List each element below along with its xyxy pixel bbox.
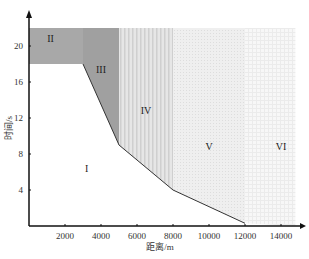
x-arrow-icon (300, 223, 306, 229)
y-tick-label: 20 (14, 41, 24, 51)
x-tick-label: 14000 (270, 231, 293, 241)
x-tick-label: 2000 (56, 231, 75, 241)
y-tick-label: 12 (14, 113, 23, 123)
region-label-VI: VI (276, 141, 287, 152)
x-tick-label: 12000 (234, 231, 257, 241)
x-tick-label: 4000 (92, 231, 111, 241)
region-III (83, 28, 119, 145)
y-tick-label: 4 (19, 185, 24, 195)
region-label-II: II (47, 33, 54, 44)
region-II (29, 28, 83, 64)
y-arrow-icon (26, 10, 32, 18)
region-VI (245, 28, 295, 226)
region-label-I: I (85, 163, 88, 174)
x-tick-label: 10000 (198, 231, 221, 241)
x-tick-label: 8000 (164, 231, 183, 241)
y-axis-label: 时间/s (3, 116, 14, 141)
y-tick-label: 8 (19, 149, 24, 159)
regions (29, 28, 295, 226)
x-tick-label: 6000 (128, 231, 147, 241)
x-axis-label: 距离/m (146, 241, 174, 252)
region-label-V: V (205, 141, 213, 152)
y-tick-label: 16 (14, 77, 24, 87)
region-label-IV: IV (141, 105, 152, 116)
region-V (173, 28, 245, 223)
region-label-III: III (96, 64, 106, 75)
zone-chart: 200040006000800010000120001400048121620 … (0, 0, 309, 259)
